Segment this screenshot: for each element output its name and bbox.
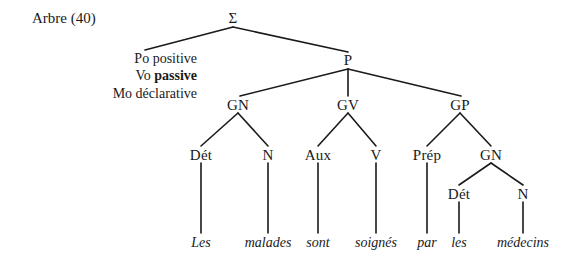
feature-po: Po positive [134, 52, 197, 66]
figure-caption: Arbre (40) [32, 11, 96, 26]
feature-vo-key: Vo [135, 68, 150, 83]
feature-vo: Vo passive [135, 69, 197, 83]
terminal-les-subject: Les [191, 236, 210, 250]
branch-gn1-det1 [201, 113, 238, 146]
branch-p-gp [348, 69, 461, 96]
branch-gp-prep [427, 113, 460, 146]
branch-gp-gn2 [460, 113, 491, 146]
terminal-les-agent: les [451, 236, 467, 250]
feature-po-key: Po [134, 51, 149, 66]
node-sigma: Σ [229, 11, 238, 26]
branch-gn2-det2 [459, 163, 491, 185]
tree-diagram-figure: Arbre (40) Po positive Vo passive Mo déc… [0, 0, 576, 272]
node-n-agent: N [517, 187, 528, 202]
node-aux: Aux [305, 148, 331, 163]
branch-sigma-left [145, 27, 233, 50]
node-gn-agent: GN [480, 148, 502, 163]
branch-gn2-n2 [491, 163, 523, 185]
branch-gv-v [348, 113, 376, 146]
node-det-subject: Dét [190, 148, 212, 163]
branch-sigma-p [233, 27, 348, 52]
feature-mo-value: déclarative [136, 86, 197, 101]
node-prep: Prép [413, 148, 441, 163]
branch-gv-aux [318, 113, 348, 146]
tree-branch-lines [0, 0, 576, 272]
node-gp: GP [450, 98, 470, 113]
feature-mo-key: Mo [113, 86, 132, 101]
feature-po-value: positive [153, 51, 197, 66]
node-n-subject: N [262, 148, 273, 163]
node-det-agent: Dét [448, 187, 470, 202]
terminal-sont: sont [306, 236, 329, 250]
branch-gn1-n1 [238, 113, 268, 146]
terminal-soignes: soignés [355, 236, 397, 250]
node-gv: GV [337, 98, 359, 113]
node-gn-subject: GN [227, 98, 249, 113]
terminal-medecins: médecins [497, 236, 549, 250]
node-v: V [370, 148, 381, 163]
feature-mo: Mo déclarative [113, 87, 197, 101]
node-p: P [344, 53, 353, 68]
terminal-par: par [417, 236, 436, 250]
feature-vo-value: passive [154, 68, 197, 83]
terminal-malades: malades [245, 236, 292, 250]
branch-p-gn [240, 69, 348, 96]
